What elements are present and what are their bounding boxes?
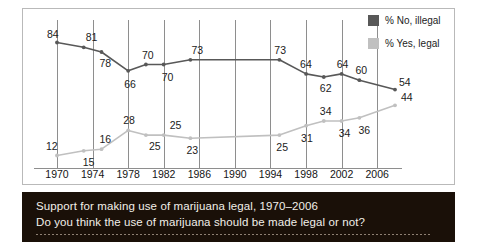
data-point: [278, 58, 282, 62]
data-point-label: 81: [86, 32, 98, 43]
data-point-label: 54: [399, 77, 411, 88]
chart-legend: % No, illegal % Yes, legal: [368, 15, 454, 61]
caption-title: Support for making use of marijuana lega…: [36, 200, 318, 212]
data-point: [393, 103, 397, 107]
x-tick-label: 1998: [294, 168, 317, 180]
data-point: [358, 78, 362, 82]
data-point: [304, 72, 308, 76]
legend-item-no-illegal: % No, illegal: [368, 15, 454, 26]
data-point-label: 31: [301, 133, 313, 144]
data-point-label: 15: [83, 157, 95, 168]
caption-divider: [36, 234, 432, 235]
x-tick-label: 1978: [116, 168, 139, 180]
data-point: [278, 133, 282, 137]
data-point: [82, 149, 86, 153]
data-point: [144, 63, 148, 67]
data-point: [393, 88, 397, 92]
data-point-label: 12: [46, 141, 58, 152]
x-tick-label: 1994: [259, 168, 282, 180]
data-point-label: 60: [355, 65, 367, 76]
data-point-label: 64: [337, 59, 349, 70]
x-tick-label: 1990: [223, 168, 246, 180]
data-point: [55, 154, 59, 158]
data-point-label: 28: [123, 115, 135, 126]
data-point-label: 44: [401, 92, 413, 103]
x-axis-tick-labels: 1970197419781982198619901994199820022006: [22, 168, 455, 184]
data-point: [358, 116, 362, 120]
x-tick-label: 2002: [330, 168, 353, 180]
data-point: [189, 136, 193, 140]
data-point: [322, 119, 326, 123]
x-tick-label: 1970: [45, 168, 68, 180]
legend-label: % No, illegal: [385, 15, 441, 26]
data-point-label: 73: [191, 45, 203, 56]
data-point-label: 70: [162, 72, 174, 83]
data-point: [126, 69, 130, 73]
x-tick-label: 1982: [152, 168, 175, 180]
data-point: [340, 72, 344, 76]
data-point: [162, 133, 166, 137]
data-point-label: 34: [339, 128, 351, 139]
data-point: [340, 119, 344, 123]
x-tick-label: 2006: [366, 168, 389, 180]
data-point-label: 64: [300, 59, 312, 70]
data-point-label: 84: [47, 29, 59, 40]
data-point-label: 66: [124, 79, 136, 90]
data-point-label: 34: [320, 106, 332, 117]
data-point-label: 73: [274, 45, 286, 56]
data-point-label: 78: [99, 58, 111, 69]
legend-swatch-icon: [368, 38, 379, 49]
legend-item-yes-legal: % Yes, legal: [368, 38, 454, 49]
data-point: [82, 45, 86, 49]
data-point-label: 16: [99, 134, 111, 145]
data-point-label: 36: [358, 125, 370, 136]
data-point-label: 25: [276, 142, 288, 153]
data-point: [189, 58, 193, 62]
x-tick-label: 1974: [81, 168, 104, 180]
legend-swatch-icon: [368, 15, 379, 26]
data-point-label: 25: [149, 141, 161, 152]
caption-band: Support for making use of marijuana lega…: [22, 192, 455, 242]
data-point: [144, 133, 148, 137]
data-point: [162, 63, 166, 67]
caption-question: Do you think the use of marijuana should…: [36, 216, 365, 228]
data-point: [55, 41, 59, 45]
data-point: [304, 124, 308, 128]
data-point: [100, 50, 104, 54]
legend-label: % Yes, legal: [385, 38, 440, 49]
chart-figure: 8481786670707373646264605412151628252523…: [0, 0, 482, 251]
data-point: [100, 147, 104, 151]
data-point-label: 70: [142, 50, 154, 61]
data-point-label: 23: [186, 145, 198, 156]
data-point: [126, 129, 130, 133]
data-point: [322, 75, 326, 79]
data-point-label: 25: [170, 120, 182, 131]
data-point-label: 62: [320, 83, 332, 94]
x-tick-label: 1986: [188, 168, 211, 180]
